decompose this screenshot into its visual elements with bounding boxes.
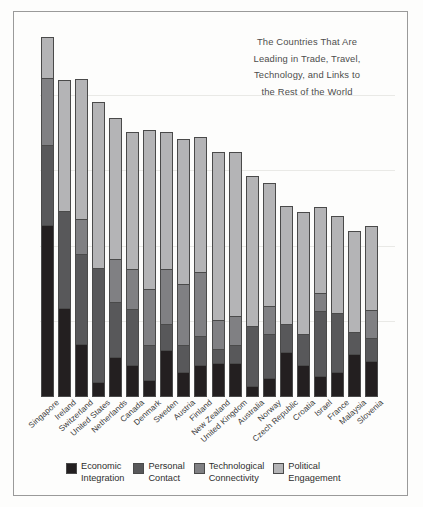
bar-segment[interactable] bbox=[280, 324, 293, 352]
bar-segment[interactable] bbox=[143, 380, 156, 397]
legend-item[interactable]: PoliticalEngagement bbox=[273, 461, 340, 484]
bar-segment[interactable] bbox=[41, 78, 54, 146]
bar-segment[interactable] bbox=[41, 145, 54, 226]
bar-segment[interactable] bbox=[297, 212, 310, 335]
bar-segment[interactable] bbox=[160, 132, 173, 270]
bar-segment[interactable] bbox=[75, 219, 88, 255]
bar-column[interactable] bbox=[212, 152, 225, 397]
bar-column[interactable] bbox=[365, 226, 378, 397]
bar-segment[interactable] bbox=[109, 118, 122, 260]
bar-segment[interactable] bbox=[365, 310, 378, 338]
bar-segment[interactable] bbox=[109, 259, 122, 302]
bar-column[interactable] bbox=[92, 102, 105, 397]
bar-segment[interactable] bbox=[194, 336, 207, 366]
bar-segment[interactable] bbox=[160, 324, 173, 350]
bar-segment[interactable] bbox=[365, 226, 378, 311]
bar-segment[interactable] bbox=[280, 206, 293, 325]
bar-segment[interactable] bbox=[348, 231, 361, 333]
bar-segment[interactable] bbox=[194, 137, 207, 273]
bar-segment[interactable] bbox=[212, 349, 225, 364]
legend-item[interactable]: PersonalContact bbox=[133, 461, 184, 484]
bar-segment[interactable] bbox=[75, 344, 88, 397]
bar-segment[interactable] bbox=[280, 352, 293, 397]
bar-segment[interactable] bbox=[58, 211, 71, 309]
bar-segment[interactable] bbox=[160, 350, 173, 397]
bar-segment[interactable] bbox=[229, 316, 242, 346]
bar-segment[interactable] bbox=[177, 345, 190, 373]
bar-segment[interactable] bbox=[75, 254, 88, 345]
bar-segment[interactable] bbox=[212, 363, 225, 397]
bar-column[interactable] bbox=[280, 206, 293, 397]
legend-item[interactable]: TechnologicalConnectivity bbox=[194, 461, 265, 484]
bar-segment[interactable] bbox=[314, 293, 327, 312]
bar-segment[interactable] bbox=[92, 382, 105, 397]
bar-segment[interactable] bbox=[314, 207, 327, 294]
bar-segment[interactable] bbox=[314, 376, 327, 397]
bar-segment[interactable] bbox=[246, 386, 259, 397]
bar-segment[interactable] bbox=[75, 79, 88, 221]
bar-segment[interactable] bbox=[109, 302, 122, 359]
bar-segment[interactable] bbox=[229, 152, 242, 316]
bar-column[interactable] bbox=[229, 152, 242, 397]
bar-segment[interactable] bbox=[58, 308, 71, 397]
bar-segment[interactable] bbox=[41, 225, 54, 397]
bar-segment[interactable] bbox=[212, 320, 225, 350]
bar-column[interactable] bbox=[348, 231, 361, 397]
bar-column[interactable] bbox=[126, 132, 139, 397]
bar-segment[interactable] bbox=[177, 372, 190, 397]
bar-segment[interactable] bbox=[365, 338, 378, 363]
bar-segment[interactable] bbox=[263, 183, 276, 308]
bar-segment[interactable] bbox=[126, 269, 139, 311]
bar-segment[interactable] bbox=[348, 332, 361, 355]
bar-column[interactable] bbox=[75, 79, 88, 397]
bar-column[interactable] bbox=[331, 216, 344, 397]
bar-column[interactable] bbox=[314, 207, 327, 397]
bar-column[interactable] bbox=[41, 37, 54, 397]
bar-segment[interactable] bbox=[263, 378, 276, 397]
bar-segment[interactable] bbox=[297, 365, 310, 397]
bar-segment[interactable] bbox=[41, 37, 54, 79]
annotation-line: The Countries That Are bbox=[221, 34, 393, 51]
bar-segment[interactable] bbox=[143, 289, 156, 346]
bar-segment[interactable] bbox=[92, 102, 105, 268]
bar-segment[interactable] bbox=[314, 311, 327, 377]
bar-segment[interactable] bbox=[194, 365, 207, 397]
bar-segment[interactable] bbox=[246, 176, 259, 327]
bar-column[interactable] bbox=[58, 80, 71, 397]
bar-segment[interactable] bbox=[126, 309, 139, 366]
bar-column[interactable] bbox=[177, 139, 190, 397]
bar-column[interactable] bbox=[143, 130, 156, 397]
bar-segment[interactable] bbox=[143, 130, 156, 291]
bar-segment[interactable] bbox=[365, 361, 378, 397]
bar-segment[interactable] bbox=[194, 272, 207, 336]
bar-segment[interactable] bbox=[126, 132, 139, 270]
bar-segment[interactable] bbox=[229, 345, 242, 364]
bar-segment[interactable] bbox=[92, 268, 105, 383]
bar-segment[interactable] bbox=[229, 363, 242, 397]
bar-column[interactable] bbox=[160, 132, 173, 397]
bar-segment[interactable] bbox=[263, 306, 276, 334]
bar-segment[interactable] bbox=[331, 313, 344, 373]
bar-segment[interactable] bbox=[331, 216, 344, 314]
bar-segment[interactable] bbox=[109, 357, 122, 397]
bar-column[interactable] bbox=[246, 176, 259, 397]
bar-segment[interactable] bbox=[160, 269, 173, 326]
x-axis-labels: SingaporeIrelandSwitzerlandUnited States… bbox=[40, 398, 395, 470]
bar-segment[interactable] bbox=[58, 80, 71, 212]
bar-column[interactable] bbox=[297, 212, 310, 397]
bar-segment[interactable] bbox=[143, 345, 156, 381]
bar-column[interactable] bbox=[263, 183, 276, 397]
bar-column[interactable] bbox=[194, 137, 207, 397]
bar-segment[interactable] bbox=[177, 284, 190, 346]
bar-segment[interactable] bbox=[348, 354, 361, 397]
bar-segment[interactable] bbox=[177, 139, 190, 285]
bar-column[interactable] bbox=[109, 118, 122, 397]
bar-segment[interactable] bbox=[246, 326, 259, 386]
legend-item[interactable]: EconomicIntegration bbox=[66, 461, 124, 484]
legend-label-line2: Integration bbox=[81, 473, 124, 485]
bar-segment[interactable] bbox=[126, 365, 139, 397]
bar-segment[interactable] bbox=[297, 334, 310, 366]
bar-segment[interactable] bbox=[263, 334, 276, 379]
bar-segment[interactable] bbox=[331, 372, 344, 397]
bar-segment[interactable] bbox=[212, 152, 225, 320]
